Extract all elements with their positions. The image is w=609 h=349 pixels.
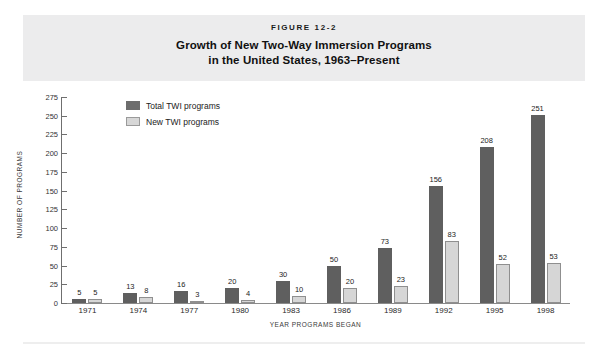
bar-new-twi[interactable] — [343, 288, 357, 303]
bar-total-twi[interactable] — [72, 299, 86, 303]
bar-new-twi[interactable] — [547, 263, 561, 303]
x-tick-label: 1971 — [62, 306, 112, 315]
bar-value-label: 4 — [233, 289, 263, 298]
bar-group: 20852 — [480, 81, 510, 304]
x-tick-label: 1989 — [368, 306, 418, 315]
figure-title-line2: in the United States, 1963–Present — [23, 53, 585, 68]
x-tick-label: 1980 — [215, 306, 265, 315]
bar-new-twi[interactable] — [190, 301, 204, 303]
bar-new-twi[interactable] — [241, 300, 255, 303]
x-tick-label: 1986 — [317, 306, 367, 315]
bar-group: 138 — [123, 81, 153, 304]
x-tick-label: 1992 — [419, 306, 469, 315]
bar-new-twi[interactable] — [88, 299, 102, 303]
bar-groups: 55138163204301050207323156832085225153 — [61, 81, 570, 304]
bar-value-label: 83 — [437, 230, 467, 239]
figure-title: Growth of New Two-Way Immersion Programs… — [23, 38, 585, 68]
bar-value-label: 10 — [284, 285, 314, 294]
figure-number: FIGURE 12-2 — [23, 23, 585, 32]
bar-group: 25153 — [531, 81, 561, 304]
figure-title-line1: Growth of New Two-Way Immersion Programs — [176, 39, 432, 51]
bar-value-label: 20 — [217, 277, 247, 286]
bar-group: 7323 — [378, 81, 408, 304]
y-tick-label: 100 — [18, 224, 58, 233]
y-axis-title: NUMBER OF PROGRAMS — [16, 140, 23, 250]
y-tick-label: 225 — [18, 130, 58, 139]
bar-value-label: 5 — [80, 288, 110, 297]
bar-value-label: 208 — [472, 136, 502, 145]
y-tick-label: 75 — [18, 243, 58, 252]
x-tick-label: 1977 — [164, 306, 214, 315]
bar-new-twi[interactable] — [394, 286, 408, 303]
y-tick-label: 0 — [18, 299, 58, 308]
bar-value-label: 3 — [182, 290, 212, 299]
bar-group: 5020 — [327, 81, 357, 304]
bar-value-label: 23 — [386, 275, 416, 284]
bar-value-label: 50 — [319, 255, 349, 264]
bar-group: 3010 — [276, 81, 306, 304]
x-tick-label: 1998 — [521, 306, 571, 315]
bar-value-label: 156 — [421, 175, 451, 184]
bar-total-twi[interactable] — [429, 186, 443, 303]
y-tick-label: 275 — [18, 93, 58, 102]
figure-header-band: FIGURE 12-2 Growth of New Two-Way Immers… — [23, 15, 585, 81]
y-tick-label: 150 — [18, 187, 58, 196]
bar-group: 15683 — [429, 81, 459, 304]
bar-value-label: 16 — [166, 280, 196, 289]
bar-value-label: 251 — [523, 104, 553, 113]
bar-new-twi[interactable] — [139, 297, 153, 303]
bar-new-twi[interactable] — [445, 241, 459, 303]
x-tick-label: 1983 — [266, 306, 316, 315]
bar-total-twi[interactable] — [480, 147, 494, 303]
bottom-divider — [23, 342, 585, 344]
bar-value-label: 20 — [335, 277, 365, 286]
x-tick-label: 1974 — [113, 306, 163, 315]
bar-value-label: 73 — [370, 237, 400, 246]
y-tick-label: 25 — [18, 280, 58, 289]
y-tick-label: 125 — [18, 205, 58, 214]
y-tick-label: 50 — [18, 262, 58, 271]
bar-new-twi[interactable] — [292, 296, 306, 303]
bar-group: 204 — [225, 81, 255, 304]
x-axis-labels: 1971197419771980198319861989199219951998 — [61, 306, 570, 322]
x-tick-label: 1995 — [470, 306, 520, 315]
bar-value-label: 30 — [268, 270, 298, 279]
figure-page: FIGURE 12-2 Growth of New Two-Way Immers… — [0, 0, 609, 349]
bar-group: 55 — [72, 81, 102, 304]
bar-total-twi[interactable] — [531, 115, 545, 303]
bar-value-label: 53 — [539, 252, 569, 261]
x-axis-title: YEAR PROGRAMS BEGAN — [61, 321, 570, 328]
bar-value-label: 52 — [488, 253, 518, 262]
bar-new-twi[interactable] — [496, 264, 510, 303]
y-tick-label: 200 — [18, 149, 58, 158]
y-tick-label: 175 — [18, 168, 58, 177]
chart-plot-area: 2752502252001751501251007550250 NUMBER O… — [0, 81, 609, 331]
bar-group: 163 — [174, 81, 204, 304]
y-tick-label: 250 — [18, 112, 58, 121]
bar-value-label: 8 — [131, 286, 161, 295]
